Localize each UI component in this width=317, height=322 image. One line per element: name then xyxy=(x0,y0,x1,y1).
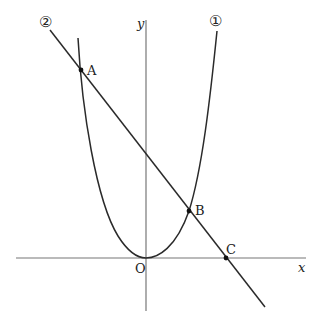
parabola-curve-1 xyxy=(78,31,217,258)
coordinate-diagram: ② ① y x A B C O xyxy=(0,0,317,322)
point-b-label: B xyxy=(195,203,205,218)
origin-label: O xyxy=(135,261,146,276)
diagram-canvas: ② ① y x A B C O xyxy=(0,0,317,322)
curve-1-label: ① xyxy=(209,12,222,30)
point-a-label: A xyxy=(86,63,97,78)
curve-2-label: ② xyxy=(39,13,52,31)
y-axis-label: y xyxy=(136,16,145,31)
point-a-marker xyxy=(79,68,84,73)
point-c-label: C xyxy=(226,242,236,257)
x-axis-label: x xyxy=(298,260,306,275)
point-b-marker xyxy=(187,209,192,214)
